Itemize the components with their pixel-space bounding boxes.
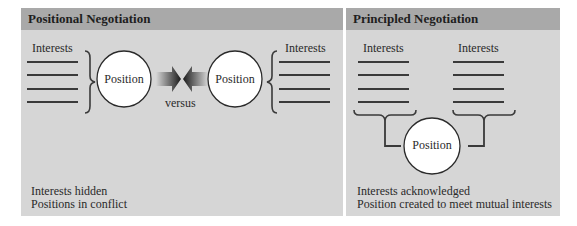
position-label: Position <box>96 72 152 87</box>
interest-line <box>453 61 504 63</box>
versus-label: versus <box>165 96 196 111</box>
interest-line <box>453 101 504 103</box>
interest-line <box>27 61 78 63</box>
panel-title: Positional Negotiation <box>21 8 343 30</box>
interests-label: Interests <box>363 41 404 56</box>
interest-line <box>279 101 330 103</box>
position-label: Position <box>403 138 461 153</box>
right-brace-icon <box>84 50 96 114</box>
converging-arrows-icon <box>156 66 208 92</box>
interests-label: Interests <box>285 41 326 56</box>
interest-line <box>27 101 78 103</box>
interests-label: Interests <box>32 41 73 56</box>
interest-line <box>27 74 78 76</box>
interest-line <box>279 74 330 76</box>
interest-line <box>453 88 504 90</box>
panel-title: Principled Negotiation <box>346 8 560 30</box>
caption-line: Position created to meet mutual interest… <box>357 198 552 211</box>
interest-line <box>279 88 330 90</box>
interest-line <box>358 101 409 103</box>
left-brace-icon <box>266 50 278 114</box>
interest-line <box>358 61 409 63</box>
interest-line <box>358 88 409 90</box>
interests-label: Interests <box>458 41 499 56</box>
position-label: Position <box>207 72 263 87</box>
interest-line <box>279 61 330 63</box>
interest-line <box>358 74 409 76</box>
interest-line <box>453 74 504 76</box>
caption-line: Positions in conflict <box>31 198 127 211</box>
interest-line <box>27 88 78 90</box>
